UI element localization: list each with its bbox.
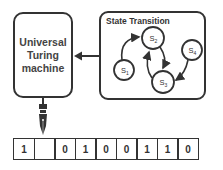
tape-cell: 1: [75, 138, 97, 160]
tape-cell: 1: [157, 138, 179, 160]
transition-s1-s2: [122, 37, 139, 60]
tape-cell: 0: [54, 138, 76, 160]
tape-cell: [34, 138, 56, 160]
tape-cell: 1: [13, 138, 35, 160]
state-s1: S1: [114, 60, 134, 80]
tape-cell: 1: [136, 138, 158, 160]
panel-to-machine-arrow: [74, 52, 99, 61]
tape: 1 0 1 0 0 1 1 0: [13, 138, 199, 160]
state-s4: S4: [182, 40, 202, 60]
tape-cell: 0: [116, 138, 138, 160]
transition-s3-s2: [147, 52, 152, 78]
tape-cell: 0: [95, 138, 117, 160]
read-write-head-icon: [39, 98, 47, 135]
transition-s4-s3: [176, 60, 188, 80]
transition-s2-s3: [160, 47, 165, 68]
tape-cell: 0: [177, 138, 199, 160]
state-s3: S3: [152, 71, 174, 93]
state-s2: S2: [142, 27, 164, 49]
